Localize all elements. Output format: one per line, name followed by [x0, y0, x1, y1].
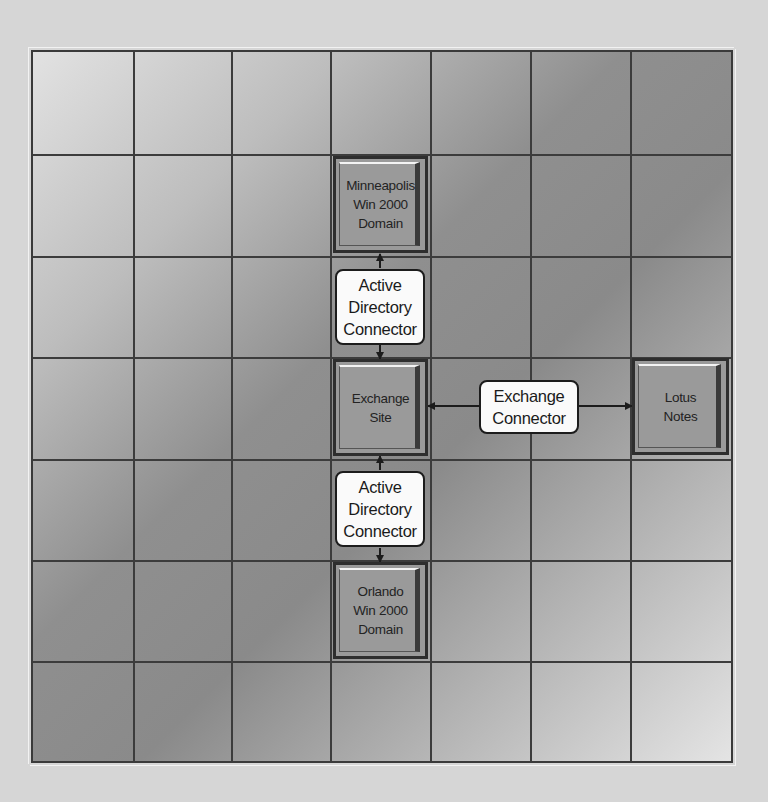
connector-label: Active Directory Connector	[343, 274, 416, 340]
connector-label-line: Connector	[343, 520, 416, 542]
node-label-line: Domain	[353, 620, 408, 639]
node-label: Minneapolis Win 2000 Domain	[346, 176, 415, 233]
node-label-line: Lotus	[664, 388, 698, 407]
node-exchange-site[interactable]: Exchange Site	[333, 359, 428, 456]
node-label: Exchange Site	[352, 389, 410, 427]
connector-label-line: Connector	[492, 407, 565, 429]
node-lotus-notes[interactable]: Lotus Notes	[632, 358, 729, 455]
node-label-line: Site	[352, 408, 410, 427]
node-label-line: Exchange	[352, 389, 410, 408]
node-orlando-domain[interactable]: Orlando Win 2000 Domain	[333, 562, 428, 659]
connector-label-line: Exchange	[492, 385, 565, 407]
connector-active-directory-top[interactable]: Active Directory Connector	[335, 269, 425, 345]
node-label-line: Minneapolis	[346, 176, 415, 195]
connector-label-line: Connector	[343, 318, 416, 340]
node-label-line: Win 2000	[346, 195, 415, 214]
node-label: Lotus Notes	[664, 388, 698, 426]
node-label: Orlando Win 2000 Domain	[353, 582, 408, 639]
node-minneapolis-domain[interactable]: Minneapolis Win 2000 Domain	[333, 156, 428, 253]
connector-label: Exchange Connector	[492, 385, 565, 429]
connector-label: Active Directory Connector	[343, 476, 416, 542]
connector-label-line: Active	[343, 476, 416, 498]
node-label-line: Orlando	[353, 582, 408, 601]
node-label-line: Notes	[664, 407, 698, 426]
connector-label-line: Directory	[343, 296, 416, 318]
node-label-line: Win 2000	[353, 601, 408, 620]
connector-label-line: Active	[343, 274, 416, 296]
connector-label-line: Directory	[343, 498, 416, 520]
node-label-line: Domain	[346, 214, 415, 233]
connector-exchange[interactable]: Exchange Connector	[479, 380, 579, 434]
connector-active-directory-bottom[interactable]: Active Directory Connector	[335, 471, 425, 547]
